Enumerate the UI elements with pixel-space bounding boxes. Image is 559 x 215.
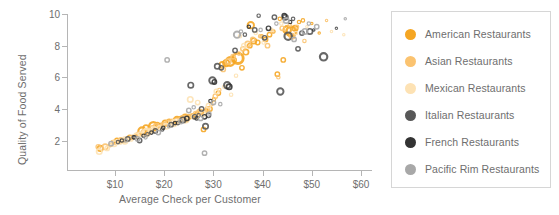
data-point bbox=[313, 29, 315, 31]
data-point bbox=[262, 41, 265, 44]
data-point bbox=[291, 17, 294, 20]
legend-item-label: Pacific Rim Restaurants bbox=[425, 163, 539, 175]
data-point bbox=[306, 26, 308, 28]
legend-swatch-icon bbox=[405, 137, 416, 148]
y-tick-label: 6 bbox=[54, 72, 60, 83]
data-point bbox=[275, 22, 278, 25]
data-point bbox=[280, 22, 283, 25]
data-point bbox=[292, 37, 296, 41]
y-tick-label: 2 bbox=[54, 135, 60, 146]
data-point bbox=[266, 26, 270, 30]
data-point bbox=[188, 97, 193, 102]
data-point bbox=[278, 17, 281, 20]
data-point bbox=[203, 124, 208, 129]
data-point bbox=[297, 20, 300, 23]
series-american-restaurants bbox=[98, 17, 321, 151]
data-point bbox=[202, 151, 206, 155]
data-point bbox=[242, 44, 246, 48]
chart-root: $10$20$30$40$50$60 246810 Average Check … bbox=[0, 0, 559, 215]
legend-item-label: Asian Restaurants bbox=[425, 55, 513, 67]
data-point bbox=[303, 39, 306, 42]
legend-item[interactable]: American Restaurants bbox=[392, 21, 550, 47]
data-point bbox=[259, 28, 262, 31]
data-point bbox=[315, 25, 319, 29]
data-point bbox=[335, 27, 337, 29]
data-point bbox=[280, 26, 284, 30]
y-tick-label: 10 bbox=[49, 9, 60, 20]
data-point bbox=[343, 33, 345, 35]
legend-item[interactable]: Mexican Restaurants bbox=[392, 75, 550, 101]
x-tick-label: $20 bbox=[156, 179, 173, 190]
legend-swatch-icon bbox=[405, 29, 416, 40]
legend-item-label: French Restaurants bbox=[425, 136, 519, 148]
legend-swatch-icon bbox=[405, 164, 416, 175]
data-point bbox=[233, 48, 237, 52]
legend-item[interactable]: French Restaurants bbox=[392, 129, 550, 155]
data-point bbox=[156, 130, 160, 134]
data-point bbox=[219, 102, 222, 105]
data-point bbox=[277, 88, 283, 94]
data-point bbox=[165, 58, 169, 62]
data-point bbox=[206, 104, 210, 108]
legend-item[interactable]: Asian Restaurants bbox=[392, 48, 550, 74]
x-tick-label: $40 bbox=[254, 179, 271, 190]
data-point bbox=[255, 40, 259, 44]
data-point bbox=[187, 108, 191, 112]
data-point bbox=[239, 30, 242, 33]
x-tick-label: $50 bbox=[303, 179, 320, 190]
x-tick-label: $10 bbox=[107, 179, 124, 190]
data-point bbox=[253, 28, 257, 32]
data-point bbox=[320, 53, 327, 60]
data-point bbox=[272, 15, 276, 19]
data-point bbox=[265, 44, 269, 48]
data-point bbox=[257, 14, 260, 17]
x-tick-label: $30 bbox=[205, 179, 222, 190]
data-point bbox=[281, 58, 285, 62]
data-point bbox=[229, 93, 232, 96]
y-tick-label: 4 bbox=[54, 103, 60, 114]
legend-item-label: Italian Restaurants bbox=[425, 109, 514, 121]
data-points-layer bbox=[96, 13, 346, 155]
data-point bbox=[198, 116, 202, 120]
data-point bbox=[318, 32, 320, 34]
y-axis-title: Quality of Food Served bbox=[16, 54, 28, 165]
data-point bbox=[192, 106, 195, 109]
data-point bbox=[307, 22, 310, 25]
x-axis-title: Average Check per Customer bbox=[0, 193, 380, 205]
data-point bbox=[144, 136, 147, 139]
legend-item[interactable]: Pacific Rim Restaurants bbox=[392, 156, 550, 182]
data-point bbox=[277, 76, 280, 79]
data-point bbox=[213, 94, 217, 98]
data-point bbox=[234, 74, 237, 77]
data-point bbox=[296, 47, 300, 51]
data-point bbox=[325, 19, 327, 21]
data-point bbox=[301, 19, 304, 22]
data-point bbox=[344, 18, 346, 20]
data-point bbox=[195, 100, 199, 104]
scatter-plot: $10$20$30$40$50$60 246810 Average Check … bbox=[0, 0, 380, 215]
legend: American RestaurantsAsian RestaurantsMex… bbox=[391, 11, 551, 188]
series-mexican-restaurants bbox=[97, 22, 345, 154]
data-point bbox=[199, 107, 203, 111]
legend-item[interactable]: Italian Restaurants bbox=[392, 102, 550, 128]
legend-item-label: Mexican Restaurants bbox=[425, 82, 526, 94]
legend-swatch-icon bbox=[405, 56, 416, 67]
y-tick-label: 8 bbox=[54, 40, 60, 51]
legend-item-label: American Restaurants bbox=[425, 28, 531, 40]
data-point bbox=[188, 83, 193, 88]
legend-swatch-icon bbox=[405, 83, 416, 94]
x-tick-label: $60 bbox=[353, 179, 370, 190]
data-point bbox=[302, 29, 307, 34]
data-point bbox=[251, 37, 255, 41]
legend-swatch-icon bbox=[405, 110, 416, 121]
data-point bbox=[211, 100, 215, 104]
data-point bbox=[243, 33, 246, 36]
data-point bbox=[240, 66, 244, 70]
data-point bbox=[330, 30, 332, 32]
